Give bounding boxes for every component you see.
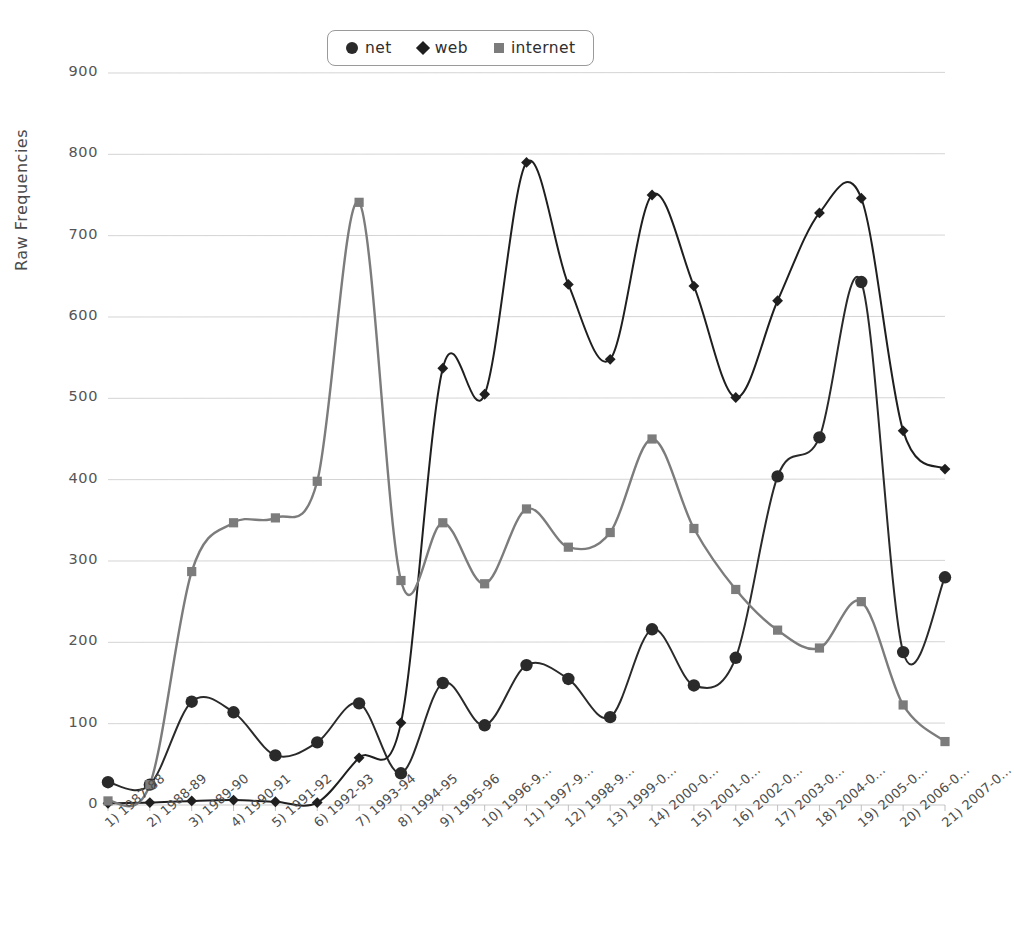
y-tick-label: 500 bbox=[54, 388, 98, 404]
gridline bbox=[108, 316, 945, 317]
data-point-net-8[interactable] bbox=[437, 677, 449, 689]
data-point-internet-10[interactable] bbox=[522, 504, 531, 513]
data-point-internet-20[interactable] bbox=[940, 737, 949, 746]
y-tick-label: 0 bbox=[54, 795, 98, 811]
data-point-web-20[interactable] bbox=[940, 464, 951, 475]
data-point-web-7[interactable] bbox=[396, 717, 407, 728]
gridline bbox=[108, 72, 945, 73]
data-point-internet-18[interactable] bbox=[857, 597, 866, 606]
data-point-net-5[interactable] bbox=[311, 736, 323, 748]
gridline bbox=[108, 642, 945, 643]
legend-label-web: web bbox=[435, 39, 468, 57]
gridline bbox=[108, 235, 945, 236]
data-point-internet-15[interactable] bbox=[731, 585, 740, 594]
y-tick-label: 400 bbox=[54, 470, 98, 486]
data-point-internet-14[interactable] bbox=[689, 524, 698, 533]
data-point-web-10[interactable] bbox=[521, 157, 532, 168]
data-point-net-13[interactable] bbox=[646, 623, 658, 635]
data-point-net-0[interactable] bbox=[102, 776, 114, 788]
gridline bbox=[108, 560, 945, 561]
x-axis-ticks bbox=[108, 805, 945, 811]
legend-item-internet[interactable]: internet bbox=[494, 39, 575, 57]
data-point-net-19[interactable] bbox=[897, 646, 909, 658]
data-point-net-3[interactable] bbox=[227, 706, 239, 718]
legend-label-internet: internet bbox=[511, 39, 575, 57]
data-point-net-18[interactable] bbox=[855, 276, 867, 288]
gridline bbox=[108, 398, 945, 399]
y-tick-label: 100 bbox=[54, 714, 98, 730]
data-point-net-20[interactable] bbox=[939, 571, 951, 583]
data-point-internet-12[interactable] bbox=[606, 528, 615, 537]
data-point-net-4[interactable] bbox=[269, 749, 281, 761]
data-point-net-9[interactable] bbox=[478, 719, 490, 731]
series-markers bbox=[102, 157, 951, 809]
data-point-web-12[interactable] bbox=[605, 354, 616, 365]
data-point-web-13[interactable] bbox=[647, 190, 658, 201]
diamond-marker-icon bbox=[416, 41, 430, 55]
data-point-internet-19[interactable] bbox=[899, 700, 908, 709]
data-point-internet-11[interactable] bbox=[564, 543, 573, 552]
legend-item-web[interactable]: web bbox=[418, 39, 468, 57]
data-point-net-14[interactable] bbox=[688, 679, 700, 691]
data-point-internet-0[interactable] bbox=[103, 796, 112, 805]
data-point-net-16[interactable] bbox=[771, 470, 783, 482]
gridline bbox=[108, 479, 945, 480]
y-tick-label: 300 bbox=[54, 551, 98, 567]
y-tick-label: 900 bbox=[54, 63, 98, 79]
data-point-internet-3[interactable] bbox=[229, 518, 238, 527]
data-point-internet-16[interactable] bbox=[773, 626, 782, 635]
data-point-web-16[interactable] bbox=[772, 295, 783, 306]
data-point-net-11[interactable] bbox=[562, 673, 574, 685]
square-marker-icon bbox=[494, 43, 504, 53]
y-tick-label: 600 bbox=[54, 307, 98, 323]
legend-item-net[interactable]: net bbox=[346, 39, 392, 57]
data-point-internet-7[interactable] bbox=[396, 576, 405, 585]
data-point-internet-8[interactable] bbox=[438, 518, 447, 527]
data-point-internet-9[interactable] bbox=[480, 579, 489, 588]
y-tick-label: 700 bbox=[54, 226, 98, 242]
data-point-net-6[interactable] bbox=[353, 697, 365, 709]
data-point-web-18[interactable] bbox=[856, 193, 867, 204]
y-tick-label: 200 bbox=[54, 632, 98, 648]
data-point-web-14[interactable] bbox=[689, 281, 700, 292]
data-point-web-8[interactable] bbox=[437, 363, 448, 374]
data-point-net-10[interactable] bbox=[520, 659, 532, 671]
gridline bbox=[108, 154, 945, 155]
data-point-web-11[interactable] bbox=[563, 279, 574, 290]
data-point-internet-17[interactable] bbox=[815, 643, 824, 652]
data-point-internet-4[interactable] bbox=[271, 513, 280, 522]
data-point-web-19[interactable] bbox=[898, 425, 909, 436]
data-point-internet-5[interactable] bbox=[313, 477, 322, 486]
y-tick-label: 800 bbox=[54, 144, 98, 160]
data-point-net-17[interactable] bbox=[813, 431, 825, 443]
data-point-net-15[interactable] bbox=[730, 652, 742, 664]
data-point-internet-6[interactable] bbox=[355, 198, 364, 207]
data-point-net-12[interactable] bbox=[604, 711, 616, 723]
circle-marker-icon bbox=[346, 42, 358, 54]
data-point-internet-13[interactable] bbox=[647, 434, 656, 443]
data-point-net-2[interactable] bbox=[186, 696, 198, 708]
data-point-internet-2[interactable] bbox=[187, 567, 196, 576]
chart-legend: net web internet bbox=[327, 30, 594, 66]
gridline bbox=[108, 723, 945, 724]
y-axis-title: Raw Frequencies bbox=[12, 90, 31, 310]
legend-label-net: net bbox=[365, 39, 392, 57]
